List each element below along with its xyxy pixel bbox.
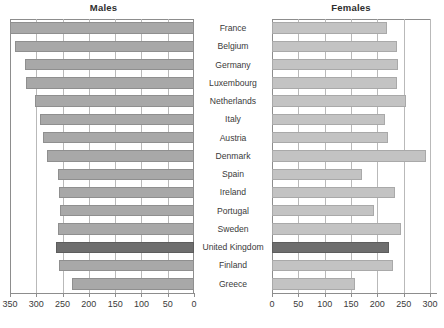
bar-males-luxembourg[interactable]	[26, 77, 194, 88]
category-label-ireland: Ireland	[197, 183, 269, 201]
bar-males-germany[interactable]	[25, 59, 194, 70]
category-label-spain: Spain	[197, 165, 269, 183]
bar-row-females	[272, 165, 430, 183]
tick-label-females-250: 250	[396, 299, 411, 309]
bar-females-finland[interactable]	[272, 260, 393, 271]
bar-females-germany[interactable]	[272, 59, 398, 70]
tick-label-males-200: 200	[81, 299, 96, 309]
bar-row-females	[272, 92, 430, 110]
bar-row-females	[272, 56, 430, 74]
bar-males-italy[interactable]	[40, 114, 194, 125]
bar-row-females	[272, 129, 430, 147]
bar-row-females	[272, 110, 430, 128]
category-label-greece: Greece	[197, 275, 269, 293]
bar-row-males	[10, 165, 194, 183]
bar-females-greece[interactable]	[272, 278, 355, 289]
bar-row-males	[10, 19, 194, 37]
bar-row-males	[10, 238, 194, 256]
bar-row-males	[10, 147, 194, 165]
tick-females-50	[298, 293, 299, 297]
category-label-luxembourg: Luxembourg	[197, 74, 269, 92]
category-label-germany: Germany	[197, 56, 269, 74]
bar-males-spain[interactable]	[58, 169, 194, 180]
category-label-netherlands: Netherlands	[197, 92, 269, 110]
bar-males-ireland[interactable]	[59, 187, 194, 198]
tick-males-200	[89, 293, 90, 297]
bar-row-females	[272, 275, 430, 293]
tick-females-150	[351, 293, 352, 297]
bar-males-finland[interactable]	[59, 260, 194, 271]
bar-males-sweden[interactable]	[58, 223, 194, 234]
category-label-italy: Italy	[197, 110, 269, 128]
bar-row-females	[272, 238, 430, 256]
bar-males-austria[interactable]	[43, 132, 194, 143]
panel-title-males: Males	[0, 2, 207, 13]
tick-males-0	[194, 293, 195, 297]
bar-row-males	[10, 92, 194, 110]
bar-series-males	[10, 19, 194, 293]
bar-females-france[interactable]	[272, 22, 387, 33]
tick-females-200	[377, 293, 378, 297]
bar-females-italy[interactable]	[272, 114, 385, 125]
bar-males-france[interactable]	[10, 22, 194, 33]
tick-males-100	[141, 293, 142, 297]
category-label-belgium: Belgium	[197, 37, 269, 55]
bar-row-females	[272, 220, 430, 238]
bar-row-males	[10, 256, 194, 274]
tick-label-males-0: 0	[191, 299, 196, 309]
tick-label-males-300: 300	[29, 299, 44, 309]
tick-females-300	[430, 293, 431, 297]
bar-row-males	[10, 183, 194, 201]
back-to-back-bar-chart: Males Females 35030025020015010050005010…	[0, 0, 444, 328]
bar-females-austria[interactable]	[272, 132, 388, 143]
bar-row-males	[10, 202, 194, 220]
bar-males-portugal[interactable]	[60, 205, 194, 216]
tick-label-males-100: 100	[134, 299, 149, 309]
bar-females-spain[interactable]	[272, 169, 362, 180]
bar-row-males	[10, 56, 194, 74]
panel-title-females: Females	[258, 2, 444, 13]
x-axis-females	[272, 293, 437, 294]
tick-males-300	[36, 293, 37, 297]
bar-row-males	[10, 275, 194, 293]
bar-females-belgium[interactable]	[272, 41, 397, 52]
bar-females-portugal[interactable]	[272, 205, 374, 216]
tick-females-100	[325, 293, 326, 297]
category-label-austria: Austria	[197, 129, 269, 147]
category-label-sweden: Sweden	[197, 220, 269, 238]
bar-females-luxembourg[interactable]	[272, 77, 397, 88]
bar-females-denmark[interactable]	[272, 150, 426, 161]
bar-females-united-kingdom[interactable]	[272, 242, 389, 253]
tick-label-females-300: 300	[422, 299, 437, 309]
bar-males-netherlands[interactable]	[35, 95, 194, 106]
tick-label-females-200: 200	[370, 299, 385, 309]
gridline-females-300	[430, 19, 431, 293]
bar-males-belgium[interactable]	[15, 41, 194, 52]
bar-row-females	[272, 147, 430, 165]
category-label-france: France	[197, 19, 269, 37]
tick-males-250	[63, 293, 64, 297]
bar-row-females	[272, 202, 430, 220]
bar-row-females	[272, 19, 430, 37]
tick-label-males-250: 250	[55, 299, 70, 309]
tick-label-males-150: 150	[108, 299, 123, 309]
bar-females-ireland[interactable]	[272, 187, 395, 198]
bar-row-females	[272, 37, 430, 55]
bar-row-females	[272, 183, 430, 201]
category-label-finland: Finland	[197, 256, 269, 274]
bar-males-greece[interactable]	[72, 278, 194, 289]
bar-row-females	[272, 256, 430, 274]
tick-label-males-350: 350	[2, 299, 17, 309]
category-label-united-kingdom: United Kingdom	[197, 238, 269, 256]
bar-series-females	[272, 19, 430, 293]
tick-males-350	[10, 293, 11, 297]
tick-label-males-50: 50	[163, 299, 173, 309]
tick-females-0	[272, 293, 273, 297]
bar-females-netherlands[interactable]	[272, 95, 406, 106]
bar-males-denmark[interactable]	[47, 150, 194, 161]
bar-row-males	[10, 74, 194, 92]
bar-males-united-kingdom[interactable]	[56, 242, 194, 253]
bar-row-males	[10, 37, 194, 55]
category-label-portugal: Portugal	[197, 202, 269, 220]
bar-females-sweden[interactable]	[272, 223, 401, 234]
